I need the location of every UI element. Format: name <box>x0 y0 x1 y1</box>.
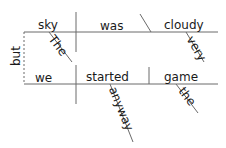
clause1-subject: sky <box>38 19 58 31</box>
clause2-subject: we <box>35 72 52 84</box>
clause2-verb: started <box>86 71 129 83</box>
clause1-complement: cloudy <box>164 19 204 31</box>
clause1-verb: was <box>100 20 123 32</box>
conjunction: but <box>10 46 22 66</box>
clause1-complement-divider <box>140 14 151 32</box>
clause2-object: game <box>164 71 198 83</box>
sentence-diagram: sky was cloudy The very but we started g… <box>0 0 226 148</box>
